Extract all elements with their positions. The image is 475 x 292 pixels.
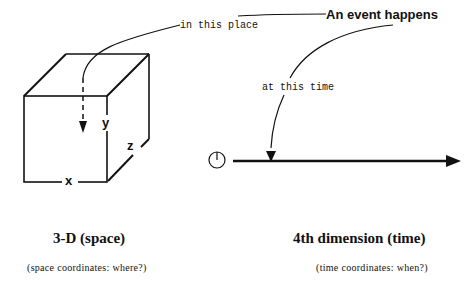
place-connector xyxy=(83,25,180,78)
time-label: at this time xyxy=(262,82,334,93)
time-connector-lower xyxy=(271,95,284,148)
z-axis-label: z xyxy=(127,138,134,153)
cube-icon xyxy=(24,54,149,182)
spacetime-diagram: in this place An event happens at this t… xyxy=(0,0,475,292)
dashed-arrow-head xyxy=(79,121,87,133)
time-connector-upper xyxy=(290,25,393,78)
time-title: 4th dimension (time) xyxy=(293,230,426,247)
place-label: in this place xyxy=(180,20,258,31)
event-headline: An event happens xyxy=(326,7,438,22)
timeline-arrow-head xyxy=(446,155,461,167)
space-subtitle: (space coordinates: where?) xyxy=(27,262,147,273)
time-subtitle: (time coordinates: when?) xyxy=(316,262,428,273)
space-title: 3-D (space) xyxy=(53,230,125,247)
place-to-event-line xyxy=(238,14,326,16)
clock-icon xyxy=(209,152,225,168)
cube-front-face xyxy=(24,96,107,182)
x-axis-label: x xyxy=(65,173,72,188)
diagram-graphics xyxy=(0,0,475,292)
y-axis-label: y xyxy=(102,115,109,130)
